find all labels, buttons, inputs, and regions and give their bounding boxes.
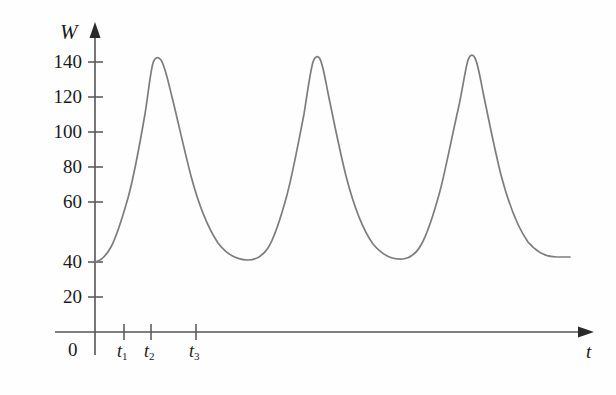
x-tick-label-t2: t2 xyxy=(144,342,155,360)
y-tick-label-100: 100 xyxy=(36,122,82,141)
x-axis-arrow-icon xyxy=(578,327,594,338)
y-axis-label: W xyxy=(60,22,78,43)
y-tick-label-120: 120 xyxy=(36,87,82,106)
x-tick-label-t3-sub: 3 xyxy=(194,350,200,362)
data-curve-W xyxy=(95,55,570,262)
y-tick-label-140: 140 xyxy=(36,52,82,71)
y-tick-label-40: 40 xyxy=(36,252,82,271)
origin-label: 0 xyxy=(68,340,78,359)
y-tick-label-20: 20 xyxy=(36,287,82,306)
chart-canvas xyxy=(0,0,616,395)
y-axis-arrow-icon xyxy=(90,22,101,38)
y-tick-label-60: 60 xyxy=(36,192,82,211)
y-tick-label-80: 80 xyxy=(36,157,82,176)
x-tick-label-t3: t3 xyxy=(189,342,200,360)
x-tick-label-t1: t1 xyxy=(117,342,128,360)
x-tick-label-t2-sub: 2 xyxy=(149,350,155,362)
x-axis-label: t xyxy=(586,342,591,361)
chart-figure: W t 0 140 120 100 80 60 40 20 t1 t2 t3 xyxy=(0,0,616,395)
x-tick-label-t1-sub: 1 xyxy=(122,350,128,362)
